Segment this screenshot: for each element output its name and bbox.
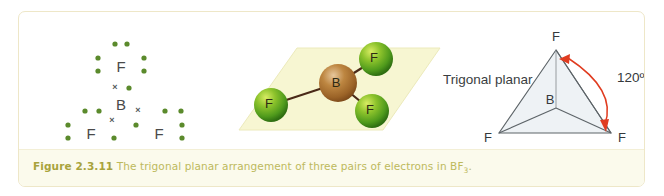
- shape-name-label: Trigonal planar: [443, 72, 533, 87]
- electron-dot: [124, 41, 129, 46]
- electron-dot: [141, 55, 146, 60]
- lewis-svg: F × B F: [59, 22, 239, 162]
- sphere-label-boron: B: [332, 75, 341, 90]
- atom-label-fluorine-bottom-right: F: [154, 125, 163, 142]
- ball-and-stick-model: F F F B: [235, 26, 445, 146]
- lewis-dot-cross-diagram: F × B F: [59, 22, 239, 162]
- caption-description: The trigonal planar arrangement of three…: [117, 160, 464, 172]
- sphere-fluorine-top-right: F: [359, 42, 393, 76]
- electron-cross-bonding: ×: [112, 82, 117, 92]
- electron-dot: [179, 122, 184, 127]
- sphere-fluorine-bottom-right: F: [355, 94, 389, 128]
- sphere-label-fluorine-bottom-right: F: [366, 102, 374, 117]
- caption-figure-number: Figure 2.3.11: [33, 160, 113, 172]
- geo-label-fluorine-left: F: [484, 130, 492, 145]
- atom-label-fluorine-top: F: [116, 58, 125, 75]
- electron-dot: [96, 108, 101, 113]
- electron-cross-bonding: ×: [109, 115, 114, 125]
- electron-dot: [95, 68, 100, 73]
- electron-dot: [65, 135, 70, 140]
- geometry-svg: F F F B 120º: [439, 20, 645, 162]
- electron-dot: [141, 68, 146, 73]
- bond-angle-label: 120º: [617, 70, 645, 85]
- figure-box: F × B F: [18, 11, 645, 187]
- sphere-boron: B: [319, 64, 357, 102]
- model-svg: F F F B: [235, 26, 445, 146]
- figure-root: F × B F: [0, 0, 664, 196]
- figure-caption: Figure 2.3.11 The trigonal planar arrang…: [33, 160, 472, 175]
- electron-dot: [95, 55, 100, 60]
- sphere-label-fluorine-left: F: [265, 96, 273, 111]
- electron-dot: [133, 122, 138, 127]
- geometry-diagram: Trigonal planar F F F B 120º: [439, 20, 645, 162]
- triangle-face: [499, 50, 611, 133]
- electron-dot: [112, 41, 117, 46]
- atom-label-fluorine-bottom-left: F: [86, 125, 95, 142]
- caption-period: .: [468, 160, 471, 172]
- fluorine-atom-top: F ×: [95, 41, 146, 92]
- electron-dot: [82, 108, 87, 113]
- atom-label-boron: B: [116, 96, 126, 113]
- sphere-label-fluorine-top-right: F: [370, 50, 378, 65]
- electron-dot: [179, 135, 184, 140]
- electron-dot-bonding: [126, 85, 131, 90]
- geo-label-boron: B: [546, 92, 555, 107]
- sphere-fluorine-left: F: [254, 88, 288, 122]
- geo-label-fluorine-top: F: [552, 29, 560, 44]
- caption-band: Figure 2.3.11 The trigonal planar arrang…: [19, 149, 644, 186]
- electron-dot: [162, 108, 167, 113]
- electron-dot: [65, 122, 70, 127]
- electron-dot: [111, 135, 116, 140]
- geo-label-fluorine-right: F: [618, 130, 626, 145]
- electron-cross-bonding: ×: [135, 105, 140, 115]
- electron-dot: [178, 108, 183, 113]
